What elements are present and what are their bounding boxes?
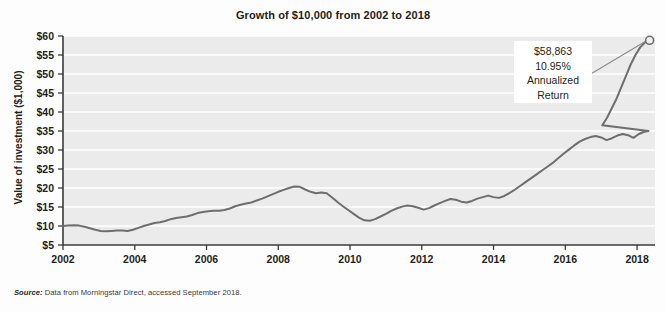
svg-text:$60: $60 (36, 30, 54, 42)
svg-text:$45: $45 (36, 87, 54, 99)
source-note: Source: Data from Morningstar Direct, ac… (14, 288, 242, 297)
svg-text:$15: $15 (36, 201, 54, 213)
source-label: Source: (14, 288, 43, 297)
svg-text:Return: Return (537, 89, 569, 101)
svg-text:$20: $20 (36, 182, 54, 194)
svg-text:$55: $55 (36, 49, 54, 61)
svg-text:$35: $35 (36, 125, 54, 137)
svg-text:$40: $40 (36, 106, 54, 118)
svg-text:$25: $25 (36, 163, 54, 175)
figure-container: Growth of $10,000 from 2002 to 2018 Valu… (0, 0, 666, 313)
svg-text:$30: $30 (36, 144, 54, 156)
svg-text:2014: 2014 (482, 253, 506, 265)
svg-text:2002: 2002 (51, 253, 75, 265)
endpoint-marker (646, 36, 654, 44)
svg-text:2010: 2010 (338, 253, 362, 265)
svg-text:2008: 2008 (267, 253, 291, 265)
svg-text:$10: $10 (36, 220, 54, 232)
x-tick-labels: 200220042006200820102012201420162018 (51, 253, 649, 265)
svg-text:$58,863: $58,863 (534, 45, 572, 57)
svg-text:2018: 2018 (625, 253, 649, 265)
svg-text:2016: 2016 (554, 253, 578, 265)
svg-text:2006: 2006 (195, 253, 219, 265)
line-chart-plot: $5$10$15$20$25$30$35$40$45$50$55$60 2002… (0, 0, 666, 313)
svg-text:$5: $5 (42, 239, 54, 251)
y-tick-labels: $5$10$15$20$25$30$35$40$45$50$55$60 (36, 30, 54, 251)
svg-text:2012: 2012 (410, 253, 434, 265)
svg-text:Annualized: Annualized (527, 74, 579, 86)
svg-text:10.95%: 10.95% (535, 60, 571, 72)
svg-text:$50: $50 (36, 68, 54, 80)
svg-text:2004: 2004 (123, 253, 147, 265)
source-text: Data from Morningstar Direct, accessed S… (43, 288, 242, 297)
